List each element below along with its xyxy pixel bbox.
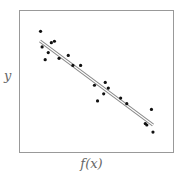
scatter-plot (0, 0, 183, 179)
data-point (44, 58, 47, 61)
data-point (67, 54, 70, 57)
data-point (39, 30, 42, 33)
data-point (41, 45, 44, 48)
data-point (79, 64, 82, 67)
data-point (96, 99, 99, 102)
y-axis-label: y (4, 68, 11, 83)
x-axis-label: f(x) (0, 156, 183, 171)
data-point (71, 64, 74, 67)
data-point (53, 40, 56, 43)
data-point (47, 51, 50, 54)
data-point (150, 108, 153, 111)
data-point (50, 41, 53, 44)
data-point (145, 123, 148, 126)
data-point (125, 102, 128, 105)
data-point (119, 96, 122, 99)
data-point (102, 92, 105, 95)
data-point (107, 87, 110, 90)
data-point (57, 57, 60, 60)
regression-line (40, 41, 153, 125)
data-point (93, 84, 96, 87)
data-point (151, 131, 154, 134)
data-point (104, 81, 107, 84)
